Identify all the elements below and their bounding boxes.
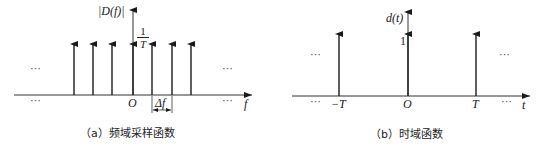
panel-a-origin-label: O	[128, 96, 137, 111]
panel-a-caption: （a）频域采样函数	[80, 124, 175, 140]
panel-a-x-label: f	[244, 97, 247, 112]
panel-a-delta-f-label: Δf	[155, 96, 165, 111]
panel-b-ellipsis-right-lower: ···	[501, 95, 512, 107]
panel-a-amplitude: 1 T	[137, 25, 149, 50]
panel-a-ellipsis-right-upper: ···	[222, 62, 233, 74]
panel-b-ellipsis-left-upper: ···	[310, 48, 321, 60]
panel-b-caption: （b）时域函数	[370, 125, 443, 141]
panel-a-ellipsis-left-lower: ···	[30, 94, 41, 106]
panel-b-t-label: T	[472, 97, 479, 112]
panel-b-y-label: d(t)	[386, 11, 403, 26]
panel-b-origin-label: O	[403, 97, 412, 112]
panel-b-impulses	[339, 34, 476, 96]
panel-b-ellipsis-left-lower: ···	[310, 95, 321, 107]
panel-b-neg-t-label: −T	[331, 97, 346, 112]
panel-b-ellipsis-right-upper: ···	[499, 48, 510, 60]
panel-a-ellipsis-left-upper: ···	[30, 62, 41, 74]
amplitude-denominator: T	[137, 38, 149, 50]
panel-a-ellipsis-right-lower: ···	[222, 94, 233, 106]
panel-a-impulses	[74, 44, 191, 95]
amplitude-numerator: 1	[137, 25, 149, 38]
panel-b-time-domain	[292, 12, 530, 96]
panel-b-x-label: t	[522, 98, 525, 113]
panel-a-y-label: |D(f)|	[98, 4, 125, 19]
panel-b-amplitude-label: 1	[400, 34, 406, 49]
